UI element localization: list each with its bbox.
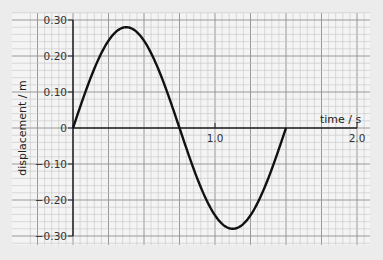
displacement-time-chart: 0.300.200.100−0.10−0.20−0.30 1.02.0 time… xyxy=(0,0,383,260)
y-tick-label: −0.20 xyxy=(35,194,67,206)
x-tick-label: 2.0 xyxy=(349,132,366,144)
y-tick-label: 0 xyxy=(60,122,67,134)
y-tick-label: 0.30 xyxy=(44,14,67,26)
y-tick-label: −0.10 xyxy=(35,158,67,170)
y-tick-label: −0.30 xyxy=(35,230,67,242)
x-tick-label: 1.0 xyxy=(207,132,224,144)
y-axis-title: displacement / m xyxy=(16,80,29,176)
x-axis-title: time / s xyxy=(320,113,362,126)
y-tick-label: 0.10 xyxy=(44,86,67,98)
y-tick-label: 0.20 xyxy=(44,50,67,62)
